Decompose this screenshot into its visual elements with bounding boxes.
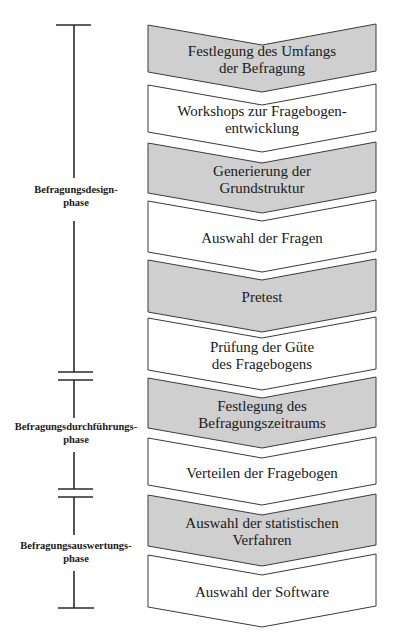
step-label: Verfahren <box>232 532 292 548</box>
step-label: Verteilen der Fragebogen <box>186 465 338 481</box>
process-step: Generierung derGrundstruktur <box>148 142 376 213</box>
step-label: Auswahl der statistischen <box>185 515 339 531</box>
phase-label: Befragungsauswertungs- <box>20 540 132 551</box>
phase-label: phase <box>63 553 89 564</box>
process-steps: Festlegung des Umfangsder BefragungWorks… <box>148 24 376 627</box>
step-label: entwicklung <box>225 120 300 136</box>
step-label: Auswahl der Software <box>195 584 329 600</box>
phase-label: Befragungsdurchführungs- <box>15 421 138 432</box>
step-label: Pretest <box>242 289 284 305</box>
step-label: des Fragebogens <box>212 356 313 372</box>
process-step: Festlegung des Umfangsder Befragung <box>148 24 376 92</box>
step-label: Generierung der <box>213 163 311 179</box>
step-label: Workshops zur Fragebogen- <box>177 103 347 119</box>
survey-process-diagram: Befragungsdesign-phaseBefragungsdurchfüh… <box>0 0 397 639</box>
phase-label: phase <box>63 434 89 445</box>
phase-label: phase <box>63 197 89 208</box>
diagram-canvas: Befragungsdesign-phaseBefragungsdurchfüh… <box>0 0 397 639</box>
process-step: Workshops zur Fragebogen-entwicklung <box>148 84 376 152</box>
step-label: Festlegung des <box>217 398 307 414</box>
step-label: Befragungszeitraums <box>198 415 326 431</box>
step-label: Grundstruktur <box>220 180 305 196</box>
step-label: der Befragung <box>219 60 306 76</box>
phase-label: Befragungsdesign- <box>34 184 118 195</box>
step-label: Festlegung des Umfangs <box>188 43 336 59</box>
phase-labels: Befragungsdesign-phaseBefragungsdurchfüh… <box>15 184 138 564</box>
step-label: Prüfung der Güte <box>210 339 314 355</box>
step-label: Auswahl der Fragen <box>201 230 323 246</box>
phase-timeline <box>56 25 94 608</box>
